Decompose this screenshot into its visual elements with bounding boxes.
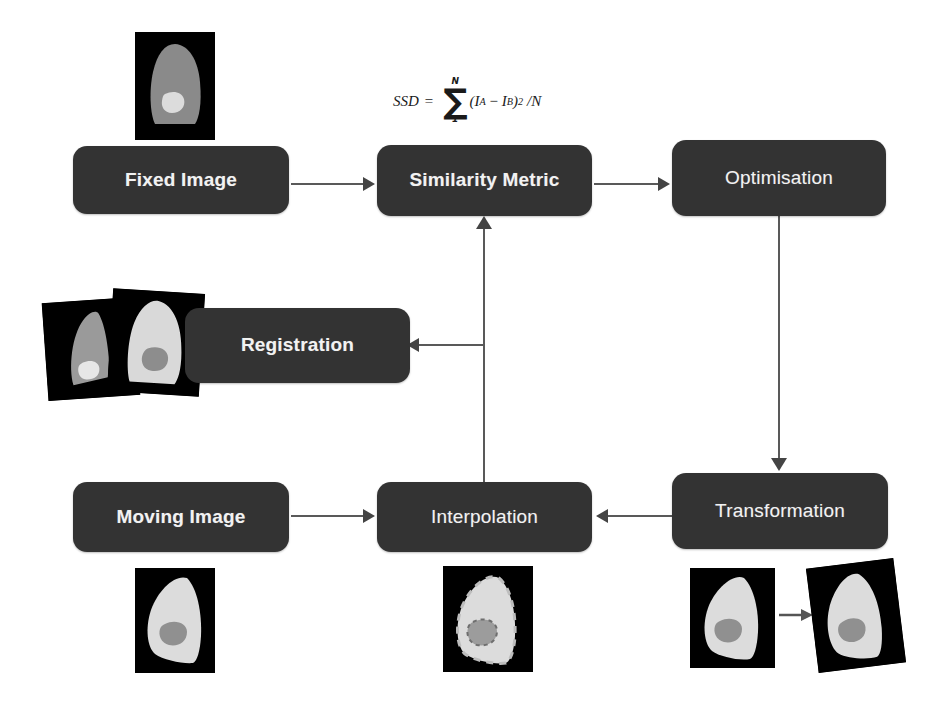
edge-fixed-to-similarity (291, 183, 365, 185)
edge-moving-to-interpolation (291, 515, 365, 517)
fixed-image-thumb (135, 32, 215, 140)
node-registration-label: Registration (233, 335, 362, 356)
node-transformation[interactable]: Transformation (672, 473, 888, 549)
node-optimisation[interactable]: Optimisation (672, 140, 886, 216)
node-fixed-image[interactable]: Fixed Image (73, 146, 289, 214)
formula-upper-limit: N (451, 78, 459, 85)
formula-lhs: SSD (393, 93, 419, 110)
edge-interpolation-to-similarity (483, 227, 485, 483)
formula-power: 2 (518, 96, 523, 107)
node-moving-image-label: Moving Image (108, 507, 253, 528)
edge-similarity-to-optimisation-arrowhead (658, 177, 670, 191)
summation-icon: N ∑ 1 (443, 88, 467, 115)
node-similarity-metric-label: Similarity Metric (401, 170, 567, 191)
ssd-formula: SSD = N ∑ 1 ( I A − I B ) 2 /N (393, 88, 541, 115)
formula-equals: = (424, 93, 434, 110)
edge-transformation-to-interpolation (607, 515, 672, 517)
node-moving-image[interactable]: Moving Image (73, 482, 289, 552)
edge-optimisation-to-transformation-arrowhead (771, 458, 787, 471)
formula-minus: − (489, 93, 499, 110)
moving-image-thumb (135, 568, 215, 673)
formula-divisor: /N (527, 93, 541, 110)
node-interpolation-label: Interpolation (423, 507, 546, 528)
formula-lower-limit: 1 (452, 116, 458, 123)
diagram-canvas: SSD = N ∑ 1 ( I A − I B ) 2 /N (0, 0, 942, 707)
node-similarity-metric[interactable]: Similarity Metric (377, 145, 592, 216)
node-optimisation-label: Optimisation (717, 168, 841, 189)
edge-transformation-to-interpolation-arrowhead (596, 509, 608, 523)
edge-branch-to-registration (418, 344, 484, 346)
edge-similarity-to-optimisation (594, 183, 660, 185)
transformation-thumb-after (806, 558, 906, 673)
edge-fixed-to-similarity-arrowhead (363, 177, 375, 191)
node-interpolation[interactable]: Interpolation (377, 482, 592, 552)
transformation-arrow-icon (779, 608, 813, 622)
edge-optimisation-to-transformation (778, 216, 780, 460)
edge-moving-to-interpolation-arrowhead (363, 509, 375, 523)
node-fixed-image-label: Fixed Image (117, 170, 245, 191)
interpolation-thumb (443, 566, 533, 672)
edge-interpolation-to-similarity-arrowhead (476, 216, 492, 229)
node-transformation-label: Transformation (707, 501, 853, 522)
formula-term-a-sub: A (479, 96, 485, 107)
node-registration[interactable]: Registration (185, 308, 410, 383)
transformation-thumb-before (690, 568, 775, 668)
